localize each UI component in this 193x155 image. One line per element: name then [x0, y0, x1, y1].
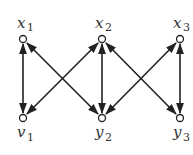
svg-text:x: x — [173, 14, 182, 32]
svg-text:2: 2 — [105, 131, 112, 144]
svg-text:v: v — [17, 123, 26, 141]
node-y1 — [20, 115, 27, 122]
label-y1: v 1 — [17, 123, 34, 144]
svg-text:x: x — [17, 14, 26, 32]
node-y2 — [99, 115, 106, 122]
svg-text:1: 1 — [27, 21, 34, 34]
node-x3 — [177, 36, 184, 43]
svg-text:3: 3 — [183, 21, 190, 34]
node-y3 — [177, 115, 184, 122]
svg-text:y: y — [94, 123, 104, 141]
svg-text:2: 2 — [105, 21, 112, 34]
svg-text:y: y — [172, 123, 182, 141]
edges — [23, 43, 180, 114]
label-y3: y 3 — [172, 123, 190, 144]
svg-text:1: 1 — [27, 131, 34, 144]
label-x1: x 1 — [17, 14, 34, 34]
svg-text:3: 3 — [183, 131, 190, 144]
label-y2: y 2 — [94, 123, 112, 144]
svg-text:x: x — [95, 14, 104, 32]
bipartite-graph: x 1 x 2 x 3 v 1 y 2 y 3 — [0, 0, 193, 155]
node-x2 — [99, 36, 106, 43]
label-x2: x 2 — [95, 14, 112, 34]
node-x1 — [20, 36, 27, 43]
label-x3: x 3 — [173, 14, 190, 34]
